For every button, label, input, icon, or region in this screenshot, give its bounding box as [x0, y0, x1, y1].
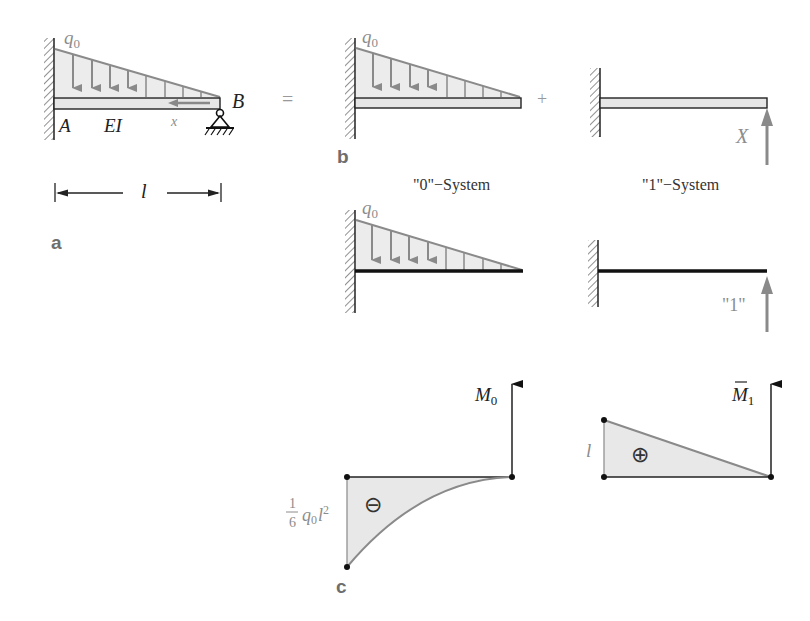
panel-label-c: c: [336, 576, 347, 597]
m0-label: M0: [474, 384, 497, 408]
fixed-wall-b0-ideal: [345, 210, 355, 313]
beam-b1: [600, 98, 767, 108]
m1-label: M1: [731, 384, 754, 408]
load-label-b0: q0: [362, 26, 378, 50]
m0-value-label: 1 6 q0l2: [286, 496, 329, 530]
system0-caption: "0"−System: [413, 176, 491, 194]
negative-sign-icon: ⊖: [364, 492, 382, 517]
panel-a: q0 A EI x B l a: [44, 27, 244, 253]
stiffness-label: EI: [103, 115, 124, 136]
system1-caption: "1"−System: [642, 176, 720, 194]
load-label-a: q0: [64, 27, 80, 51]
system0-loaded-beam: q0 b: [337, 26, 521, 167]
system1-redundant-beam: X: [590, 68, 773, 165]
pinned-support-icon: [205, 110, 234, 136]
equals-sign: =: [282, 88, 293, 110]
panel-label-a: a: [51, 232, 62, 253]
length-label: l: [141, 180, 147, 202]
m0-moment-diagram: ⊖ M0 1 6 q0l2 c: [286, 384, 515, 597]
positive-sign-icon: ⊕: [631, 442, 649, 467]
svg-text:1: 1: [289, 496, 296, 511]
coord-x-label: x: [170, 114, 178, 129]
panel-label-b: b: [337, 146, 349, 167]
point-b-label: B: [232, 90, 244, 112]
m0-area: [347, 477, 512, 567]
fixed-wall-a: [44, 38, 54, 140]
fixed-wall-b0: [345, 38, 355, 139]
force-x-label: X: [735, 125, 749, 147]
load-label-b0-ideal: q0: [362, 197, 378, 221]
system0-idealized: q0: [345, 197, 523, 313]
svg-text:6: 6: [289, 515, 296, 530]
unit-force-label: "1": [722, 295, 746, 315]
fixed-wall-b1: [590, 68, 600, 137]
m1-value-label: l: [586, 440, 591, 461]
m1-moment-diagram: ⊕ l M1: [586, 382, 774, 480]
beam-force-method-figure: q0 A EI x B l a = +: [0, 0, 810, 621]
plus-sign: +: [537, 89, 547, 109]
svg-text:q0l2: q0l2: [302, 503, 329, 527]
length-dimension: [55, 183, 221, 202]
figure-canvas: q0 A EI x B l a = +: [0, 0, 810, 621]
point-a-label: A: [57, 115, 71, 136]
system1-idealized: "1": [588, 240, 773, 332]
beam-b0: [355, 98, 521, 108]
fixed-wall-b1-ideal: [588, 240, 598, 307]
